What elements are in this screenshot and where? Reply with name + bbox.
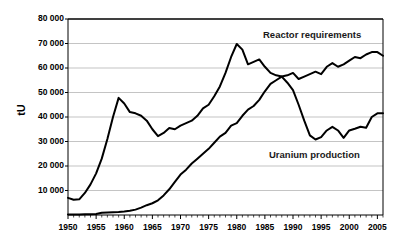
series-label-reactor-requirements: Reactor requirements: [263, 29, 361, 40]
y-tick-label: 30 000: [16, 137, 64, 146]
series-line-uranium-production: [68, 44, 383, 200]
y-tick-label: 20 000: [16, 161, 64, 170]
y-tick-label: 40 000: [16, 112, 64, 121]
uranium-chart: tU 10 00020 00030 00040 00050 00060 0007…: [0, 0, 400, 251]
y-tick-label: 10 000: [16, 186, 64, 195]
y-axis-tick-labels: 10 00020 00030 00040 00050 00060 00070 0…: [14, 0, 64, 251]
x-tick-label: 2005: [357, 222, 397, 232]
y-tick-label: 70 000: [16, 39, 64, 48]
series-label-uranium-production: Uranium production: [269, 149, 360, 160]
y-tick-label: 60 000: [16, 63, 64, 72]
series-line-reactor-requirements: [68, 52, 383, 214]
y-tick-label: 80 000: [16, 14, 64, 23]
y-tick-label: 50 000: [16, 88, 64, 97]
